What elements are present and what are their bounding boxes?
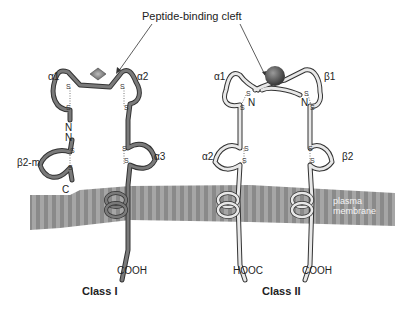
class2-beta1-label: β1 (324, 71, 335, 82)
class1-n2-label: N (65, 132, 72, 143)
ss-label: S (246, 90, 251, 97)
peptide-sphere (265, 66, 285, 86)
ss-label: S (304, 90, 309, 97)
membrane-line1: plasma (333, 196, 376, 206)
ss-label: S (66, 104, 71, 111)
ss-label: S (310, 157, 315, 164)
ss-label: S (240, 104, 245, 111)
class1-b2m-label: β2-m (17, 157, 40, 168)
class1-alpha1-label: α1 (48, 71, 59, 82)
class2-alpha2-label: α2 (202, 151, 213, 162)
peptide-diamond (90, 68, 106, 80)
ss-label: S (120, 83, 125, 90)
class2-cooh-label: COOH (302, 265, 332, 276)
class1-cooh-label: COOH (117, 265, 147, 276)
class1-alpha3-label: α3 (154, 151, 165, 162)
ss-label: S (68, 164, 73, 171)
ss-label: S (66, 83, 71, 90)
class1-alpha2-label: α2 (137, 71, 148, 82)
class2-title: Class II (262, 285, 301, 297)
plasma-membrane-label: plasma membrane (333, 196, 376, 216)
ss-label: S (310, 104, 315, 111)
ss-label: S (70, 147, 75, 154)
class2-beta2-label: β2 (342, 151, 353, 162)
peptide-binding-cleft-label: Peptide-binding cleft (142, 10, 242, 22)
class1-c-label: C (62, 184, 69, 195)
ss-label: S (308, 145, 313, 152)
ss-label: S (242, 157, 247, 164)
class2-n-left-label: N (248, 97, 255, 108)
class1-title: Class I (82, 285, 117, 297)
class2-n-right-label: N (301, 97, 308, 108)
class2-alpha1-label: α1 (214, 71, 225, 82)
ss-label: S (124, 157, 129, 164)
class2-hooc-label: HOOC (233, 265, 263, 276)
ss-label: S (124, 104, 129, 111)
ss-label: S (244, 145, 249, 152)
ss-label: S (122, 145, 127, 152)
membrane-line2: membrane (333, 206, 376, 216)
